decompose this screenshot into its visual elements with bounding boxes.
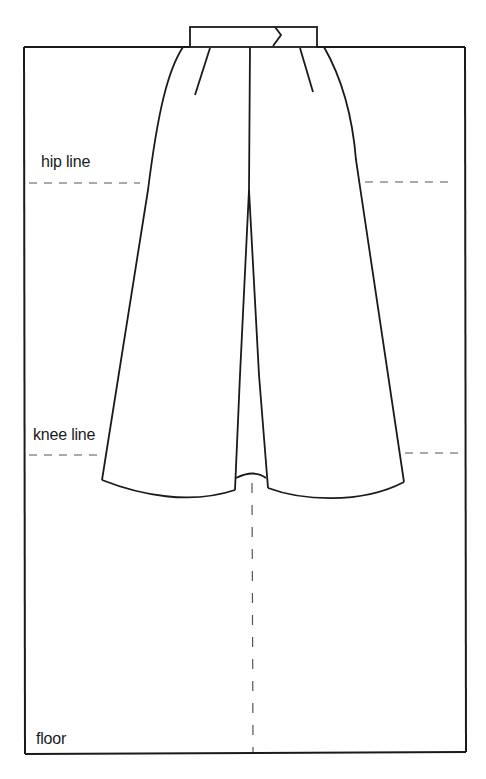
- hip-line: [29, 182, 452, 183]
- hip-line-label: hip line: [41, 153, 90, 171]
- left-leg: [102, 47, 250, 497]
- waistband: [190, 27, 317, 47]
- knee-line: [29, 453, 464, 455]
- center-line: [252, 483, 253, 752]
- measurement-frame: [24, 47, 466, 754]
- knee-line-label: knee line: [33, 426, 95, 444]
- trousers-diagram: [0, 0, 486, 779]
- crotch-curve: [236, 474, 266, 479]
- floor-label: floor: [36, 730, 66, 748]
- right-leg: [249, 47, 404, 498]
